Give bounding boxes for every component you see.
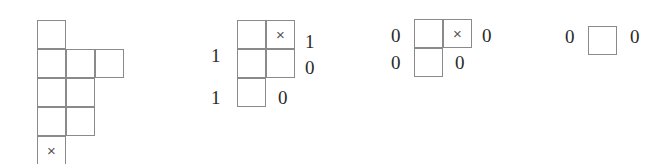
label-left: 0 [565,27,575,46]
diagram-4: 00 [0,0,661,164]
label-right: 0 [630,27,640,46]
figure-root: ××11100×000000 [0,0,661,164]
grid-cell [588,26,617,55]
